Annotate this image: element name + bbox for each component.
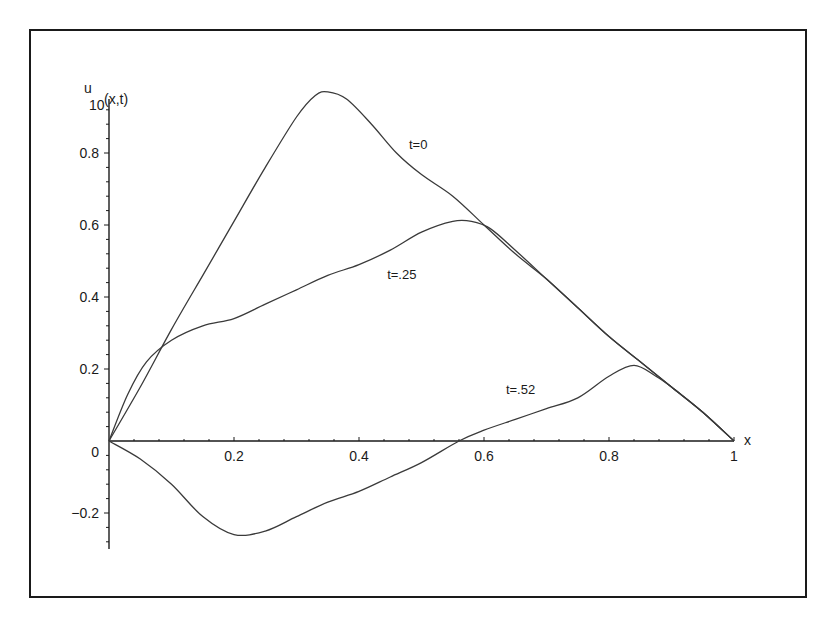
x-tick-label: 0.2 [224,448,244,464]
curve-t-52 [109,365,734,535]
x-tick-label: 0.6 [474,448,494,464]
curves [109,92,734,536]
curve-label-t-0: t=0 [409,137,427,152]
x-tick-label: 0.4 [349,448,369,464]
chart-canvas: 0.20.40.60.8100.20.40.60.8−0.2xu10(x,t)t… [0,0,837,618]
labels: 0.20.40.60.8100.20.40.60.8−0.2xu10(x,t)t… [71,80,751,521]
y-tick-label: 0.2 [80,361,100,377]
y-tick-label: 0 [91,444,99,460]
y-tick-label: 0.8 [80,145,100,161]
curve-label-t-25: t=.25 [387,267,416,282]
y-axis-title-args: (x,t) [104,91,128,107]
y-tick-label: 0.4 [80,289,100,305]
y-axis-title: u [84,80,92,96]
x-tick-label: 0.8 [599,448,619,464]
axes [104,99,734,549]
y-tick-label: −0.2 [71,505,99,521]
y-axis-title-subscript: 10 [89,97,105,113]
x-tick-label: 1 [730,448,738,464]
curve-label-t-52: t=.52 [506,382,535,397]
curve-t-25 [109,220,734,441]
x-axis-title: x [744,432,751,448]
y-tick-label: 0.6 [80,217,100,233]
